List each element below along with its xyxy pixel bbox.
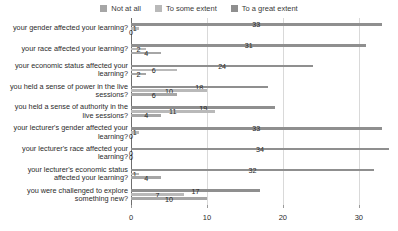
legend-swatch-to-some-extent (155, 5, 162, 12)
category-label: you held a sense of power in the live se… (2, 82, 128, 99)
bar-row: 1 (131, 173, 393, 176)
bar-value-label: 4 (144, 111, 148, 120)
legend-item-to-some-extent: To some extent (155, 4, 217, 13)
bar-value-label: 0 (129, 152, 133, 161)
x-axis-tick-label: 20 (279, 213, 287, 222)
bar-row: 17 (131, 189, 393, 192)
bar-group: your economic status affected your learn… (131, 60, 393, 81)
category-label: your lecturer's gender affected your lea… (2, 124, 128, 141)
legend-item-not-at-all: Not at all (100, 4, 141, 13)
category-label: your gender affected your learning? (2, 24, 128, 32)
bar-row: 0 (131, 31, 393, 34)
bar-row: 11 (131, 110, 393, 113)
category-label: your lecturer's race affected your learn… (2, 145, 128, 162)
bar-row: 1 (131, 27, 393, 30)
bar-row: 0 (131, 152, 393, 155)
bar-row: 10 (131, 197, 393, 200)
bar-row: 2 (131, 48, 393, 51)
bar-row: 2 (131, 73, 393, 76)
bar-value-label: 2 (137, 69, 141, 78)
x-axis-tick (207, 205, 208, 208)
bar-value-label: 4 (144, 49, 148, 58)
legend-label-to-some-extent: To some extent (166, 4, 217, 13)
bar-row: 6 (131, 93, 393, 96)
category-label: you were challenged to explore something… (2, 186, 128, 203)
bar-row: 4 (131, 114, 393, 117)
category-label: your lecturer's economic status affected… (2, 165, 128, 182)
bar-group: your race affected your learning?3124 (131, 39, 393, 60)
bar-row: 1 (131, 131, 393, 134)
plot-area: 0102030your gender affected your learnin… (0, 18, 396, 231)
bar-row: 0 (131, 135, 393, 138)
bar-value-label: 10 (165, 194, 173, 203)
bar-row: 4 (131, 176, 393, 179)
x-axis-tick-label: 30 (355, 213, 363, 222)
x-axis-tick-label: 0 (129, 213, 133, 222)
bar-value-label: 6 (152, 90, 156, 99)
legend-label-not-at-all: Not at all (111, 4, 141, 13)
legend-item-to-a-great-extent: To a great extent (231, 4, 298, 13)
axis-area: 0102030your gender affected your learnin… (131, 18, 393, 205)
chart-legend: Not at all To some extent To a great ext… (0, 4, 398, 13)
category-label: you held a sense of authority in the liv… (2, 103, 128, 120)
bar-row: 10 (131, 89, 393, 92)
bar-value-label: 0 (129, 28, 133, 37)
bar-group: your lecturer's gender affected your lea… (131, 122, 393, 143)
bar-row: 34 (131, 148, 393, 151)
bar-row: 4 (131, 52, 393, 55)
bar-group: your lecturer's economic status affected… (131, 163, 393, 184)
bar-row: 6 (131, 69, 393, 72)
x-axis-tick (283, 205, 284, 208)
x-axis-tick-label: 10 (203, 213, 211, 222)
x-axis-tick (131, 205, 132, 208)
bar-row: 32 (131, 169, 393, 172)
legend-swatch-not-at-all (100, 5, 107, 12)
bar-value-label: 4 (144, 173, 148, 182)
category-label: your economic status affected your learn… (2, 62, 128, 79)
bar-value-label: 0 (129, 132, 133, 141)
bar-group: you held a sense of power in the live se… (131, 80, 393, 101)
bar-group: you were challenged to explore something… (131, 184, 393, 205)
legend-label-to-a-great-extent: To a great extent (242, 4, 298, 13)
bar-row: 33 (131, 127, 393, 130)
bar-group: you held a sense of authority in the liv… (131, 101, 393, 122)
bar-group: your lecturer's race affected your learn… (131, 143, 393, 164)
bar-row: 33 (131, 23, 393, 26)
bar-row: 24 (131, 65, 393, 68)
x-axis-tick (359, 205, 360, 208)
bar-row: 0 (131, 156, 393, 159)
legend-swatch-to-a-great-extent (231, 5, 238, 12)
bar-row: 31 (131, 44, 393, 47)
bar-chart: Not at all To some extent To a great ext… (0, 0, 398, 231)
bar-group: your gender affected your learning?3310 (131, 18, 393, 39)
category-label: your race affected your learning? (2, 45, 128, 53)
